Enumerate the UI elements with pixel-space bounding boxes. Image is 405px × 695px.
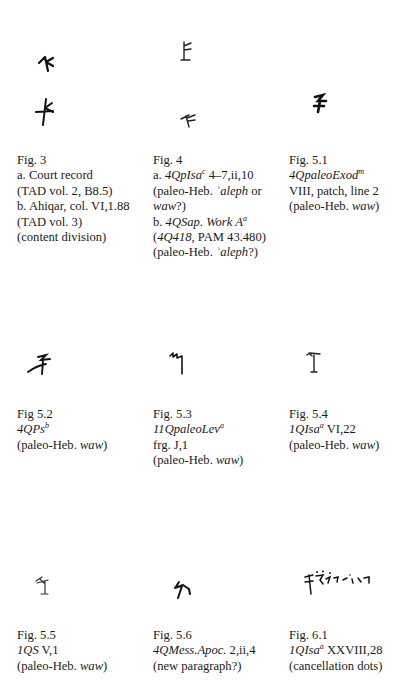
fig5-1-line: (paleo-Heb. waw) [289, 199, 379, 214]
text: ) [103, 659, 107, 673]
text: ) [375, 199, 379, 213]
fig4-line: (4Q418, PAM 43.480) [153, 230, 266, 245]
text: waw [352, 438, 375, 452]
superscript: a [243, 214, 247, 223]
fig5-3-waw-glyph-image [168, 350, 186, 376]
superscript: b [45, 421, 49, 430]
text: XXVIII,28 [324, 643, 383, 657]
fig3-line: (TAD vol. 2, B8.5) [17, 184, 130, 199]
fig5-4-line: 1QIsaa VI,22 [289, 422, 379, 437]
text: (paleo-Heb. [289, 438, 352, 452]
text: waw [80, 438, 103, 452]
text: 4Q418 [157, 230, 191, 244]
fig4b-aleph-glyph-image [179, 111, 197, 129]
fig5-6-line: (new paragraph?) [153, 659, 256, 674]
text: V,1 [39, 643, 59, 657]
text: (paleo-Heb. [289, 199, 352, 213]
fig6-1-line: (cancellation dots) [289, 659, 383, 674]
superscript: a [220, 421, 224, 430]
fig6-1-cancellation-dots-image [303, 570, 373, 598]
text: 4–7,ii,10 [206, 168, 254, 182]
fig5-3-line: 11QpaleoLeva [153, 422, 243, 437]
fig5-5-label: Fig. 5.5 [17, 628, 107, 643]
text: (paleo-Heb. [17, 438, 80, 452]
fig5-5-waw-glyph-image [34, 575, 52, 597]
text: a. [153, 168, 165, 182]
text: or [248, 184, 262, 198]
fig5-2-caption: Fig 5.2 4QPsb (paleo-Heb. waw) [17, 407, 107, 453]
fig5-1-waw-glyph-image [311, 93, 329, 115]
fig3a-aleph-glyph-image [36, 54, 56, 74]
text: 4QMess.Apoc. [153, 643, 226, 657]
fig5-3-line: (paleo-Heb. waw) [153, 453, 243, 468]
fig5-3-label: Fig. 5.3 [153, 407, 243, 422]
text: b. [153, 215, 166, 229]
text: waw [352, 199, 375, 213]
fig3-caption: Fig. 3 a. Court record (TAD vol. 2, B8.5… [17, 153, 130, 245]
text: waw [216, 453, 239, 467]
fig3-line: b. Ahiqar, col. VI,1.88 [17, 199, 130, 214]
fig5-5-line: 1QS V,1 [17, 643, 107, 658]
fig4a-aleph-glyph-image [179, 40, 195, 64]
text: ʾaleph [216, 184, 248, 198]
fig5-6-line: 4QMess.Apoc. 2,ii,4 [153, 643, 256, 658]
text: 4QPs [17, 422, 45, 436]
fig5-1-label: Fig. 5.1 [289, 153, 379, 168]
fig5-3-line: frg. J,1 [153, 438, 243, 453]
fig3-label: Fig. 3 [17, 153, 130, 168]
text: 2,ii,4 [226, 643, 255, 657]
fig4-line: a. 4QpIsac 4–7,ii,10 [153, 168, 266, 183]
fig5-4-label: Fig. 5.4 [289, 407, 379, 422]
fig5-1-caption: Fig. 5.1 4QpaleoExodm VIII, patch, line … [289, 153, 379, 215]
fig5-4-waw-glyph-image [305, 350, 323, 374]
fig3-line: (TAD vol. 3) [17, 215, 130, 230]
fig5-6-caption: Fig. 5.6 4QMess.Apoc. 2,ii,4 (new paragr… [153, 628, 256, 674]
text: ) [375, 438, 379, 452]
text: (paleo-Heb. [17, 659, 80, 673]
text: waw [80, 659, 103, 673]
fig5-2-waw-glyph-image [26, 353, 54, 377]
text: 1QS [17, 643, 39, 657]
text: ?) [248, 245, 258, 259]
text: 1QIsa [289, 422, 320, 436]
fig5-6-label: Fig. 5.6 [153, 628, 256, 643]
text: ) [239, 453, 243, 467]
text: ʾaleph [216, 245, 248, 259]
fig6-1-line: 1QIsaa XXVIII,28 [289, 643, 383, 658]
fig6-1-label: Fig. 6.1 [289, 628, 383, 643]
text: 4QpaleoExod [289, 168, 358, 182]
fig4-line: (paleo-Heb. ʾaleph?) [153, 245, 266, 260]
text: (paleo-Heb. [153, 245, 216, 259]
superscript: m [358, 167, 364, 176]
fig4-label: Fig. 4 [153, 153, 266, 168]
fig3b-aleph-glyph-image [33, 95, 57, 127]
text: 1QIsa [289, 643, 320, 657]
fig3-line: a. Court record [17, 168, 130, 183]
text: waw [153, 199, 176, 213]
fig3-line: (content division) [17, 230, 130, 245]
text: (paleo-Heb. [153, 453, 216, 467]
fig5-5-line: (paleo-Heb. waw) [17, 659, 107, 674]
fig5-6-paragraph-glyph-image [173, 580, 193, 600]
fig5-5-caption: Fig. 5.5 1QS V,1 (paleo-Heb. waw) [17, 628, 107, 674]
text: ?) [176, 199, 186, 213]
text: 4QpIsa [165, 168, 202, 182]
fig5-4-caption: Fig. 5.4 1QIsaa VI,22 (paleo-Heb. waw) [289, 407, 379, 453]
fig5-4-line: (paleo-Heb. waw) [289, 438, 379, 453]
text: VI,22 [324, 422, 356, 436]
fig5-3-caption: Fig. 5.3 11QpaleoLeva frg. J,1 (paleo-He… [153, 407, 243, 469]
text: 11QpaleoLev [153, 422, 220, 436]
fig5-2-line: 4QPsb [17, 422, 107, 437]
fig4-line: (paleo-Heb. ʾaleph or [153, 184, 266, 199]
fig5-1-line: VIII, patch, line 2 [289, 184, 379, 199]
fig6-1-caption: Fig. 6.1 1QIsaa XXVIII,28 (cancellation … [289, 628, 383, 674]
fig4-caption: Fig. 4 a. 4QpIsac 4–7,ii,10 (paleo-Heb. … [153, 153, 266, 261]
fig4-line: waw?) [153, 199, 266, 214]
text: (paleo-Heb. [153, 184, 216, 198]
fig5-2-label: Fig 5.2 [17, 407, 107, 422]
fig4-line: b. 4QSap. Work Aa [153, 215, 266, 230]
text: , PAM 43.480) [192, 230, 266, 244]
text: 4QSap. Work A [166, 215, 243, 229]
text: ) [103, 438, 107, 452]
fig5-2-line: (paleo-Heb. waw) [17, 438, 107, 453]
